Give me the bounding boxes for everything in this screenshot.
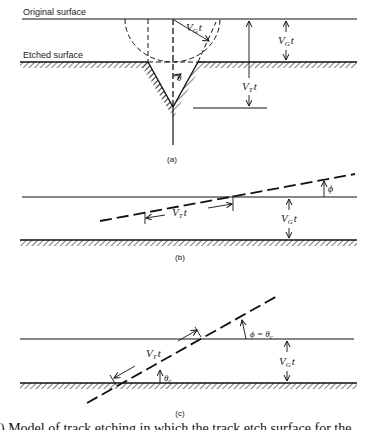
vt-arrow-left-c [114, 366, 135, 378]
vg-radius-label: VGt [186, 21, 203, 35]
panel-c-caption: (c) [175, 409, 185, 418]
vt-arrow-right-b [208, 204, 232, 208]
cone-right-wall [173, 62, 198, 107]
vt-depth-label: VTt [242, 80, 258, 94]
vt-length-label-c: VTt [146, 347, 162, 361]
vt-arrow-left-b [146, 215, 165, 218]
panel-a: Original surface Etched surface VGt θ [20, 7, 357, 164]
vg-thickness-label: VGt [278, 34, 295, 48]
etched-surface-label: Etched surface [23, 50, 83, 60]
panel-c: VTt θc ϕ = θc VGt (c) [20, 295, 357, 418]
panel-b-caption: (b) [175, 253, 185, 262]
cone-left-wall [148, 62, 173, 107]
vt-length-label-b: VTt [172, 206, 188, 220]
vg-thickness-label-c: VGt [279, 355, 296, 369]
panel-a-caption: (a) [167, 155, 177, 164]
panel-b: VTt VGt ϕ (b) [20, 174, 357, 262]
theta-label: θ [177, 73, 182, 83]
etched-surface [20, 62, 357, 120]
phi-label: ϕ [328, 183, 333, 194]
phi-c-arrow [242, 320, 246, 339]
vg-thickness-label-b: VGt [281, 212, 298, 226]
figure-caption-text: ) Model of track etching in which the tr… [0, 422, 375, 430]
track-etching-diagram: Original surface Etched surface VGt θ [0, 0, 375, 430]
original-surface-label: Original surface [23, 7, 86, 17]
figure-caption-clipped: ) Model of track etching in which the tr… [0, 422, 375, 430]
